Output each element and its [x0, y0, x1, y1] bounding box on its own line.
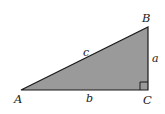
vertex-label-c: C: [143, 93, 152, 107]
side-label-a: a: [152, 52, 159, 65]
side-label-c: c: [83, 46, 89, 59]
vertex-label-a: A: [13, 92, 22, 106]
side-label-b: b: [86, 92, 93, 105]
right-triangle-diagram: A B C c b a: [0, 0, 165, 114]
vertex-label-b: B: [141, 11, 150, 25]
